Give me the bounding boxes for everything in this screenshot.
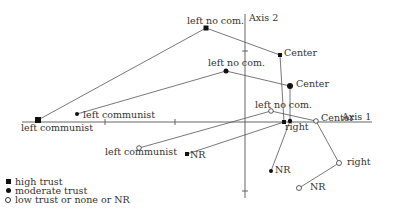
low-trust-label-left-no-com: left no com.	[255, 99, 312, 110]
legend-item-low-trust: low trust or none or NR	[4, 195, 130, 204]
low-trust-label-right: right	[347, 156, 371, 167]
high-trust-label-left-communist: left communist	[21, 122, 93, 133]
moderate-trust-label-left-communist: left communist	[83, 109, 155, 120]
filled-circle-icon	[4, 188, 12, 193]
high-trust-label-right: right	[285, 121, 309, 132]
legend-label: low trust or none or NR	[15, 195, 130, 204]
low-trust-label-center: Center	[321, 112, 354, 123]
moderate-trust-label-nr: NR	[275, 164, 291, 175]
high-trust-marker-nr	[185, 152, 189, 156]
open-circle-icon	[4, 197, 12, 203]
low-trust-label-left-communist: left communist	[105, 146, 177, 157]
low-trust-label-nr: NR	[310, 181, 326, 192]
high-trust-label-nr: NR	[190, 149, 206, 160]
legend: high trust moderate trust low trust or n…	[4, 177, 130, 204]
high-trust-marker-left-no-com	[204, 26, 209, 31]
moderate-trust-marker-left-no-com	[224, 69, 229, 74]
moderate-trust-marker-center	[287, 83, 293, 89]
low-trust-marker-nr	[297, 186, 302, 191]
moderate-trust-marker-nr	[269, 169, 273, 173]
high-trust-marker-center	[278, 53, 282, 57]
axis-2-label: Axis 2	[248, 12, 278, 23]
low-trust-marker-center	[314, 119, 319, 124]
moderate-trust-label-center: Center	[296, 78, 329, 89]
high-trust-label-left-no-com: left no com.	[187, 15, 244, 26]
high-trust-label-center: Center	[284, 47, 317, 58]
moderate-trust-label-left-no-com: left no com.	[208, 57, 265, 68]
low-trust-marker-right	[337, 161, 342, 166]
filled-square-icon	[4, 179, 12, 184]
moderate-trust-marker-left-communist	[75, 112, 79, 116]
high-trust-path	[38, 28, 284, 122]
